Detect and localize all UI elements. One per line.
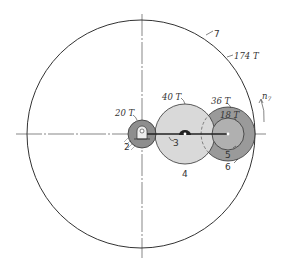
gear-7-teeth-label: 174 T (234, 51, 260, 61)
arm-3-label: 3 (173, 138, 179, 148)
gear-5-pin (227, 133, 230, 136)
leader-7 (206, 31, 213, 35)
planetary-gear-diagram: 7 174 T 20 T 40 T 36 T 18 T 2 3 4 5 6 n7 (0, 0, 288, 263)
gear-2-teeth-label: 20 T (114, 108, 136, 118)
rotation-arrow-n7 (261, 100, 264, 122)
leader-174T (227, 55, 233, 57)
gear-2-label: 2 (124, 142, 130, 152)
gear-5-label: 5 (225, 150, 231, 160)
leader-40T (181, 98, 185, 104)
gear-7-label: 7 (214, 29, 220, 39)
gear-4-pin (184, 133, 187, 136)
gear-6-teeth-label: 36 T (211, 96, 232, 106)
gear-6-label: 6 (225, 162, 231, 172)
rotation-label: n7 (262, 91, 271, 102)
gear-4-teeth-label: 40 T (161, 92, 183, 102)
gear-4-label: 4 (182, 169, 188, 179)
gear-5-teeth-label: 18 T (220, 110, 241, 120)
